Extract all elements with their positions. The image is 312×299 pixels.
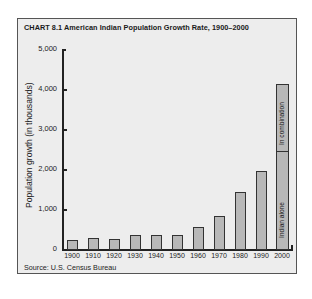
y-tick (63, 89, 67, 91)
bar-1950 (172, 235, 183, 250)
bar-1940 (151, 235, 162, 250)
bar-1900 (67, 240, 78, 250)
bar-1920 (109, 239, 120, 250)
bar-1990 (256, 171, 267, 250)
bar-2000: Indian aloneIn combination (276, 84, 289, 250)
y-tick-label: 5,000 (17, 44, 57, 53)
x-tick-label: 1900 (61, 252, 83, 259)
x-axis-end-tick (291, 245, 293, 250)
x-tick-label: 1940 (145, 252, 167, 259)
y-axis-top-tick (62, 49, 66, 51)
segment-label-indian-alone: Indian alone (278, 202, 285, 238)
bar-1970 (214, 216, 225, 250)
bar-1930 (130, 235, 141, 250)
y-axis (62, 49, 64, 250)
y-axis-label: Population growth (in thousands) (24, 82, 34, 208)
x-tick-label: 1950 (166, 252, 188, 259)
y-tick-label: 3,000 (17, 124, 57, 133)
y-tick (63, 129, 67, 131)
x-tick-label: 1930 (124, 252, 146, 259)
x-tick-label: 1990 (250, 252, 272, 259)
y-tick-label: 4,000 (17, 84, 57, 93)
x-tick-label: 1980 (229, 252, 251, 259)
chart-title: CHART 8.1 American Indian Population Gro… (24, 23, 249, 32)
y-tick-label: 1,000 (17, 204, 57, 213)
x-tick-label: 1960 (187, 252, 209, 259)
bar-1910 (88, 238, 99, 250)
y-tick (63, 209, 67, 211)
x-tick-label: 1910 (82, 252, 104, 259)
x-tick-label: 1970 (208, 252, 230, 259)
bar-1960 (193, 227, 204, 250)
segment-label-in-combination: In combination (278, 102, 285, 145)
segment-divider (277, 151, 288, 152)
x-tick-label: 1920 (103, 252, 125, 259)
x-tick-label: 2000 (271, 252, 293, 259)
y-tick-label: 2,000 (17, 164, 57, 173)
bar-1980 (235, 192, 246, 250)
y-tick-label: 0 (17, 244, 57, 253)
source-note: Source: U.S. Census Bureau (24, 263, 116, 272)
y-tick (63, 169, 67, 171)
